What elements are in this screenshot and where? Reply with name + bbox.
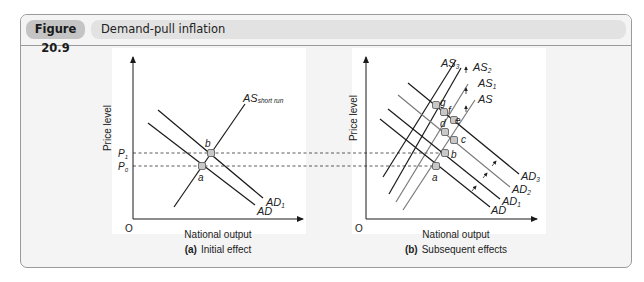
panel-b-y-axis-label: Price level (348, 95, 359, 141)
panel-b-origin-label: O (355, 223, 363, 234)
point-a-label: a (198, 172, 204, 183)
point-a-marker (199, 163, 206, 170)
panel-b-x-axis-label: National output (422, 229, 489, 240)
point-b-marker (208, 150, 215, 157)
point-d-label: d (440, 118, 446, 129)
panel-b-caption: (b)Subsequent effects (405, 244, 507, 255)
ad-label-b: AD (490, 204, 506, 216)
point-b-label-b: b (451, 149, 457, 160)
panel-a-caption: (a)Initial effect (185, 244, 252, 255)
panel-a-x-axis-label: National output (184, 229, 251, 240)
diagram-canvas: a b ASshort run AD1 AD P1 P0 Price level… (0, 0, 644, 282)
point-b-marker-b (442, 150, 449, 157)
point-b-label: b (205, 138, 211, 149)
ad-label: AD (256, 205, 272, 217)
point-c-marker (451, 137, 458, 144)
point-f-marker (441, 109, 448, 116)
panel-a-origin-label: O (125, 223, 133, 234)
point-g-marker (433, 102, 440, 109)
panel-a-y-axis-label: Price level (102, 105, 113, 151)
point-a-marker-b (433, 163, 440, 170)
point-d-marker (442, 129, 449, 136)
point-g-label: g (440, 97, 446, 108)
point-e-label: e (455, 115, 461, 126)
point-c-label: c (461, 134, 466, 145)
as-label: AS (477, 93, 493, 105)
point-a-label-b: a (432, 172, 438, 183)
